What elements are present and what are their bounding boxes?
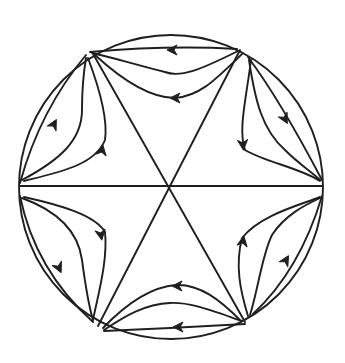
direction-arrow-icon — [237, 235, 249, 247]
direction-arrow-icon — [47, 117, 61, 131]
sector-top-right — [238, 57, 322, 181]
sector-bottom-right — [237, 196, 322, 316]
flow-curve — [22, 58, 86, 180]
flow-curve — [253, 196, 322, 314]
direction-arrow-icon — [52, 261, 65, 274]
direction-arrow-icon — [167, 45, 177, 55]
flow-curve — [22, 198, 93, 320]
sector-bottom — [103, 281, 245, 332]
flow-curve — [239, 197, 320, 316]
diameter-line-3 — [98, 50, 240, 326]
direction-arrow-icon — [279, 253, 293, 267]
diameters-group — [20, 50, 322, 326]
flow-curve — [90, 48, 237, 52]
flow-curve — [103, 285, 240, 328]
flow-curve — [250, 198, 320, 315]
sector-bottom-left — [20, 196, 107, 322]
sectors-group — [20, 45, 322, 332]
direction-arrow-icon — [172, 281, 182, 291]
flow-curve — [20, 55, 86, 183]
sector-top — [90, 45, 242, 103]
flow-curve — [24, 58, 106, 181]
phase-portrait-svg — [0, 0, 345, 363]
sector-top-left — [20, 55, 108, 183]
phase-portrait-figure — [0, 0, 345, 363]
